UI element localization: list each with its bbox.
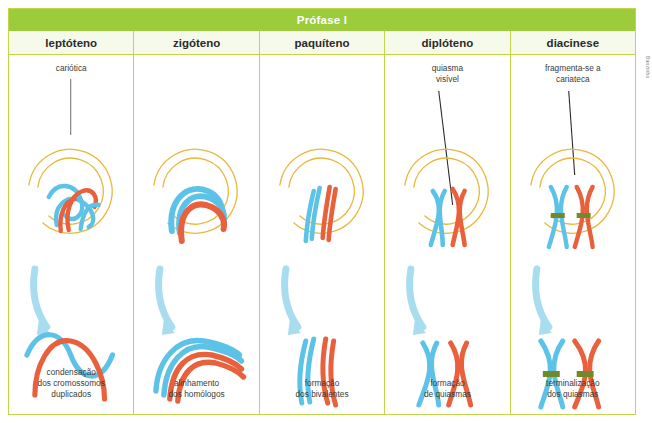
stage-header-label: diplóteno xyxy=(422,37,474,49)
nuclear-envelope-icon xyxy=(531,149,614,233)
stage-column-paquiteno: formação dos bivalentes xyxy=(260,55,385,414)
caption-line: de quiasmas xyxy=(385,389,509,400)
caption-line: duplicados xyxy=(9,389,133,400)
diploteno-illustration xyxy=(385,55,509,414)
caption-leptoteno: condensação dos cromossomos duplicados xyxy=(9,367,133,400)
caption-diacinese: terminalização dos quiasmas xyxy=(511,378,635,400)
leptoteno-illustration xyxy=(9,55,133,414)
figure-title-band: Prófase I xyxy=(9,9,635,31)
caption-line: dos cromossomos xyxy=(9,378,133,389)
stage-column-leptoteno: cariótica xyxy=(9,55,134,414)
nuclear-envelope-icon xyxy=(280,149,363,233)
stage-header-label: leptóteno xyxy=(45,37,97,49)
stage-illustration-row: cariótica xyxy=(9,55,635,414)
prophase-i-figure: Prófase I leptóteno zigóteno paquíteno d… xyxy=(8,8,636,415)
caption-line: dos quiasmas xyxy=(511,389,635,400)
caption-line: terminalização xyxy=(511,378,635,389)
transition-arrow-icon xyxy=(284,269,300,335)
transition-arrow-icon xyxy=(410,269,426,335)
transition-arrow-icon xyxy=(34,269,50,335)
centromere-bands-lower-icon xyxy=(542,371,593,377)
caption-paquiteno: formação dos bivalentes xyxy=(260,378,384,400)
caption-line: condensação xyxy=(9,367,133,378)
caption-line: formação xyxy=(260,378,384,389)
transition-arrow-icon xyxy=(535,269,551,335)
zigoteno-illustration xyxy=(134,55,258,414)
stage-header-leptoteno: leptóteno xyxy=(9,31,134,54)
caption-line: dos homólogos xyxy=(134,389,258,400)
stage-header-paquiteno: paquíteno xyxy=(260,31,385,54)
leader-line xyxy=(439,91,453,205)
chiasma-chromosomes xyxy=(431,189,465,245)
stage-header-diploteno: diplóteno xyxy=(385,31,510,54)
stage-header-zigoteno: zigóteno xyxy=(134,31,259,54)
diacinese-illustration xyxy=(511,55,635,414)
paquiteno-illustration xyxy=(260,55,384,414)
illustration-credit: Banzinho xyxy=(645,56,651,78)
caption-zigoteno: alinhamento dos homólogos xyxy=(134,378,258,400)
stage-column-zigoteno: alinhamento dos homólogos xyxy=(134,55,259,414)
centromere-bands-icon xyxy=(550,213,590,218)
stage-header-label: zigóteno xyxy=(173,37,220,49)
transition-arrow-icon xyxy=(159,269,175,335)
stage-header-row: leptóteno zigóteno paquíteno diplóteno d… xyxy=(9,31,635,55)
stage-header-label: paquíteno xyxy=(295,37,350,49)
caption-line: formação xyxy=(385,378,509,389)
stage-column-diacinese: fragmenta-se a cariateca xyxy=(511,55,635,414)
caption-diploteno: formação de quiasmas xyxy=(385,378,509,400)
stage-column-diploteno: quiasma visível xyxy=(385,55,510,414)
stage-header-diacinese: diacinese xyxy=(511,31,635,54)
stage-header-label: diacinese xyxy=(547,37,599,49)
page-title: Prófase I xyxy=(297,14,347,26)
leader-line xyxy=(568,91,574,175)
caption-line: dos bivalentes xyxy=(260,389,384,400)
caption-line: alinhamento xyxy=(134,378,258,389)
